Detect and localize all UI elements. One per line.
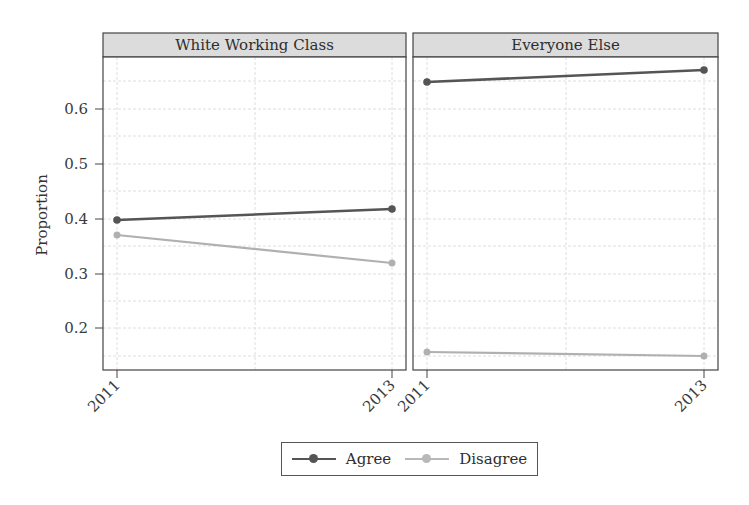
y-tick-label: 0.3 — [64, 265, 88, 283]
legend-label: Agree — [346, 450, 391, 468]
disagree-line-marker-icon — [405, 452, 449, 466]
data-point — [389, 260, 396, 267]
agree-line-marker-icon — [292, 452, 336, 466]
y-tick-label: 0.5 — [64, 155, 88, 173]
y-tick-label: 0.6 — [64, 100, 88, 118]
x-tick-label: 2011 — [84, 376, 124, 416]
legend-label: Disagree — [459, 450, 527, 468]
x-tick-label: 2013 — [359, 376, 399, 416]
legend-item-disagree: Disagree — [405, 450, 527, 468]
data-point — [701, 353, 708, 360]
data-point — [388, 205, 396, 213]
panel-everyone-else: Everyone Else — [394, 33, 718, 416]
panel-title: Everyone Else — [511, 36, 620, 54]
y-axis: 0.6 0.5 0.4 0.3 0.2 — [64, 100, 103, 337]
data-point — [424, 349, 431, 356]
data-point — [423, 78, 431, 86]
y-tick-label: 0.4 — [64, 210, 88, 228]
panel-title: White Working Class — [175, 36, 334, 54]
data-point — [113, 216, 121, 224]
x-tick-label: 2011 — [394, 376, 434, 416]
faceted-line-chart: Proportion 0.6 0.5 0.4 0.3 0.2 White Wor… — [0, 0, 749, 505]
x-tick-label: 2013 — [671, 376, 711, 416]
chart-legend: Agree Disagree — [281, 442, 538, 476]
data-point — [114, 232, 121, 239]
y-axis-title: Proportion — [33, 174, 51, 256]
legend-item-agree: Agree — [292, 450, 391, 468]
y-tick-label: 0.2 — [64, 319, 88, 337]
panel-white-working-class: White Working Class — [84, 33, 406, 416]
data-point — [700, 66, 708, 74]
